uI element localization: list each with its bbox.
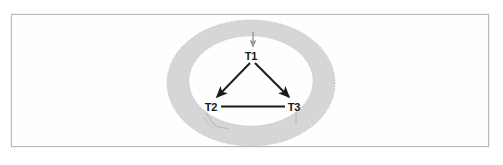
- node-label-t2: T2: [205, 101, 218, 113]
- annulus-ring: [160, 14, 344, 154]
- figure-canvas: T1 T2 T3: [0, 0, 503, 165]
- node-label-t1: T1: [245, 50, 258, 62]
- node-label-t3: T3: [288, 101, 301, 113]
- figure-root: T1 T2 T3: [0, 0, 503, 165]
